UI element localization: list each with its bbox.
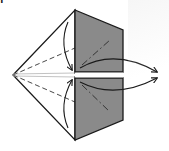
step-number-fragment: f [0,0,4,5]
background-watermark [128,0,169,100]
gray-panel-bottom [75,78,123,140]
origami-diagram: f [0,0,169,151]
gray-panel-top [75,10,123,72]
